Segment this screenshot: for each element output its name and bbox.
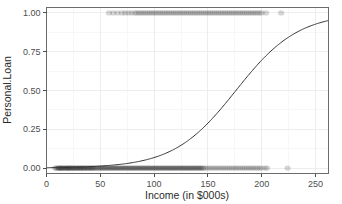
y-axis-title: Personal.Loan — [1, 56, 13, 124]
x-tick-label: 100 — [147, 179, 162, 189]
x-tick-label: 150 — [200, 179, 215, 189]
y-tick-label: 0.75 — [23, 47, 41, 57]
x-tick-label: 50 — [95, 179, 105, 189]
y-tick-label: 1.00 — [23, 8, 41, 18]
x-tick-label: 250 — [308, 179, 323, 189]
data-points-loan-one — [106, 10, 284, 15]
chart-container: 050100150200250 0.000.250.500.751.00 Inc… — [0, 0, 342, 204]
logistic-regression-scatter-plot: 050100150200250 0.000.250.500.751.00 Inc… — [0, 0, 342, 204]
y-tick-label: 0.50 — [23, 86, 41, 96]
x-tick-label: 0 — [44, 179, 49, 189]
x-axis-title: Income (in $000s) — [145, 189, 229, 201]
y-tick-label: 0.25 — [23, 124, 41, 134]
x-tick-label: 200 — [254, 179, 269, 189]
y-tick-label: 0.00 — [23, 163, 41, 173]
